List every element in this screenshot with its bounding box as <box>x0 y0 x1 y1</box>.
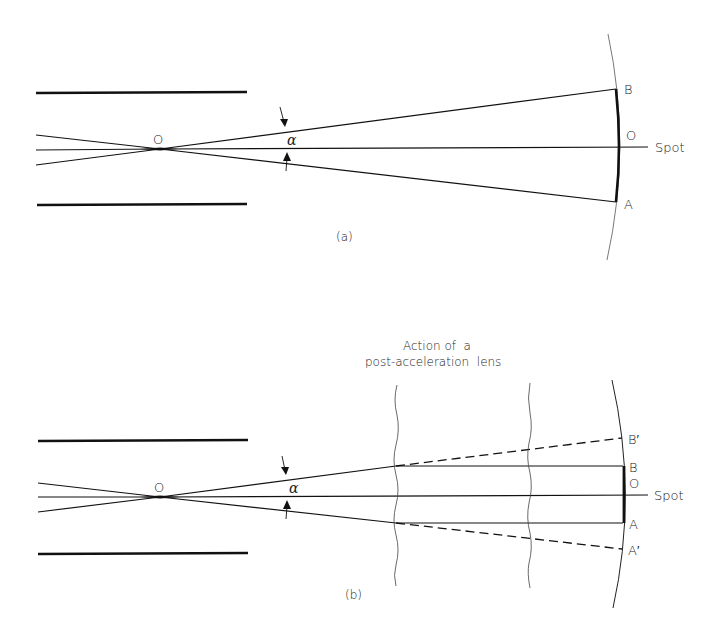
panel-a-caption: (a) <box>336 230 353 244</box>
spot-label: Spot <box>655 140 685 155</box>
beam-upper-dashed <box>396 438 622 466</box>
spot-label: Spot <box>654 488 684 503</box>
beam-lower-edge <box>160 149 616 202</box>
point-a-label: A <box>629 517 638 532</box>
point-b-label: B <box>624 82 633 97</box>
panel-b: Action of a post-acceleration lens <box>38 339 684 608</box>
angle-label: α <box>287 132 297 148</box>
beam-axis <box>160 495 648 497</box>
spot-trace <box>616 89 619 202</box>
lens-title-line1: Action of a <box>403 339 471 353</box>
lens-title-line2: post-acceleration lens <box>365 355 501 369</box>
ray-in-upper <box>38 483 160 497</box>
lower-plate <box>38 553 248 554</box>
origin-label: O <box>154 480 164 495</box>
upper-plate <box>38 440 248 441</box>
lower-plate <box>37 204 247 205</box>
point-o-label: O <box>626 128 636 143</box>
point-o-label: O <box>629 476 639 491</box>
ray-in-lower <box>36 149 160 165</box>
angle-label: α <box>289 480 299 496</box>
beam-axis <box>160 147 648 149</box>
point-b-prime-label: B′ <box>628 432 640 447</box>
lens-boundary-left <box>394 385 398 586</box>
point-b-label: B <box>629 460 638 475</box>
panel-b-caption: (b) <box>345 588 362 602</box>
ray-in-lower <box>38 497 160 512</box>
ray-in-upper <box>36 135 160 149</box>
beam-lower-dashed <box>396 523 622 549</box>
upper-plate <box>36 92 247 93</box>
beam-upper-edge <box>160 89 616 149</box>
origin-label: O <box>153 132 163 147</box>
electron-beam-diagram: O α B O Spot A (a) Action of a post-acce… <box>0 0 726 627</box>
ray-in-axis <box>36 149 160 150</box>
beam-upper-edge <box>160 466 396 497</box>
point-a-label: A <box>624 197 633 212</box>
lens-boundary-right <box>528 383 532 588</box>
point-a-prime-label: A′ <box>628 543 640 558</box>
panel-a: O α B O Spot A (a) <box>36 34 685 260</box>
beam-lower-edge <box>160 497 396 523</box>
